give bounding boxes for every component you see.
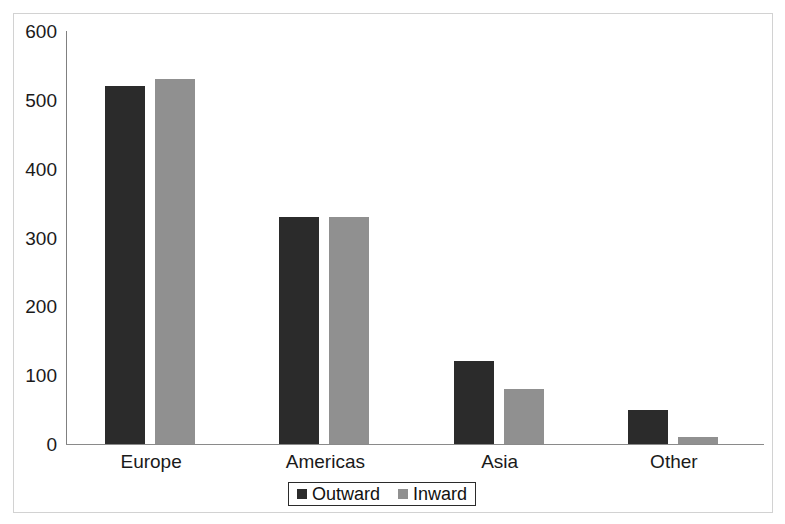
x-axis-line [66,444,764,445]
legend-label: Outward [312,485,380,503]
legend-label: Inward [413,485,467,503]
legend-swatch-icon-outward [297,489,307,499]
bar-americas-inward [329,217,369,444]
legend-entry-outward: Outward [297,485,380,503]
bar-asia-inward [504,389,544,444]
x-axis-label-europe: Europe [120,451,181,474]
legend-entry-inward: Inward [398,485,467,503]
y-axis-tick-labels: 6005004003002001000 [1,1,57,524]
y-axis-tick-label: 600 [5,22,57,41]
plot-area [67,31,764,444]
bar-other-inward [678,437,718,444]
bar-other-outward [628,410,668,444]
y-axis-tick-label: 300 [5,228,57,247]
x-axis-category-labels: EuropeAmericasAsiaOther [67,451,764,477]
bar-europe-outward [105,86,145,444]
x-axis-label-other: Other [650,451,698,474]
chart-frame: 6005004003002001000 EuropeAmericasAsiaOt… [13,13,773,513]
x-axis-label-asia: Asia [481,451,518,474]
y-axis-tick-label: 500 [5,90,57,109]
bar-asia-outward [454,361,494,444]
chart-legend: OutwardInward [288,482,476,506]
y-axis-tick-label: 0 [5,435,57,454]
x-axis-label-americas: Americas [286,451,365,474]
bar-europe-inward [155,79,195,444]
y-axis-tick-label: 200 [5,297,57,316]
y-axis-tick-label: 100 [5,366,57,385]
bars-layer [67,31,764,444]
legend-swatch-icon-inward [398,489,408,499]
bar-americas-outward [279,217,319,444]
y-axis-tick-label: 400 [5,159,57,178]
